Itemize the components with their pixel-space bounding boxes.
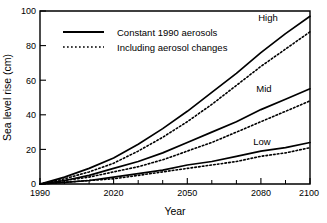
x-tick-label-2080: 2080	[251, 188, 271, 198]
chart-canvas: 0 20 40 60 80 100 1990 202	[0, 0, 327, 223]
x-axis-tick-labels: 1990 2020 2050 2080 2100	[30, 188, 319, 198]
y-axis-title: Sea level rise (cm)	[1, 54, 13, 141]
sea-level-rise-figure: 0 20 40 60 80 100 1990 202	[0, 0, 327, 223]
series-low-including-aerosol-changes	[40, 148, 310, 184]
series-high-including-aerosol-changes	[40, 32, 310, 184]
x-tick-label-1990: 1990	[30, 188, 50, 198]
y-tick-label-60: 60	[26, 76, 36, 86]
legend-label-dotted: Including aerosol changes	[117, 42, 228, 53]
y-tick-label-100: 100	[21, 6, 36, 16]
y-tick-label-40: 40	[26, 110, 36, 120]
x-axis-title: Year	[164, 205, 186, 217]
curve-annotations: High Mid Low	[253, 12, 277, 147]
y-tick-label-20: 20	[26, 145, 36, 155]
curve-label-low: Low	[253, 136, 271, 147]
y-tick-label-80: 80	[26, 41, 36, 51]
legend-label-solid: Constant 1990 aerosols	[117, 27, 218, 38]
y-axis-ticks	[40, 11, 46, 184]
legend: Constant 1990 aerosols Including aerosol…	[63, 27, 228, 53]
x-tick-label-2050: 2050	[177, 188, 197, 198]
x-tick-label-2100: 2100	[299, 188, 319, 198]
y-axis-tick-labels: 0 20 40 60 80 100	[21, 6, 36, 189]
curve-label-high: High	[258, 12, 278, 23]
curve-label-mid: Mid	[256, 83, 271, 94]
x-tick-label-2020: 2020	[104, 188, 124, 198]
